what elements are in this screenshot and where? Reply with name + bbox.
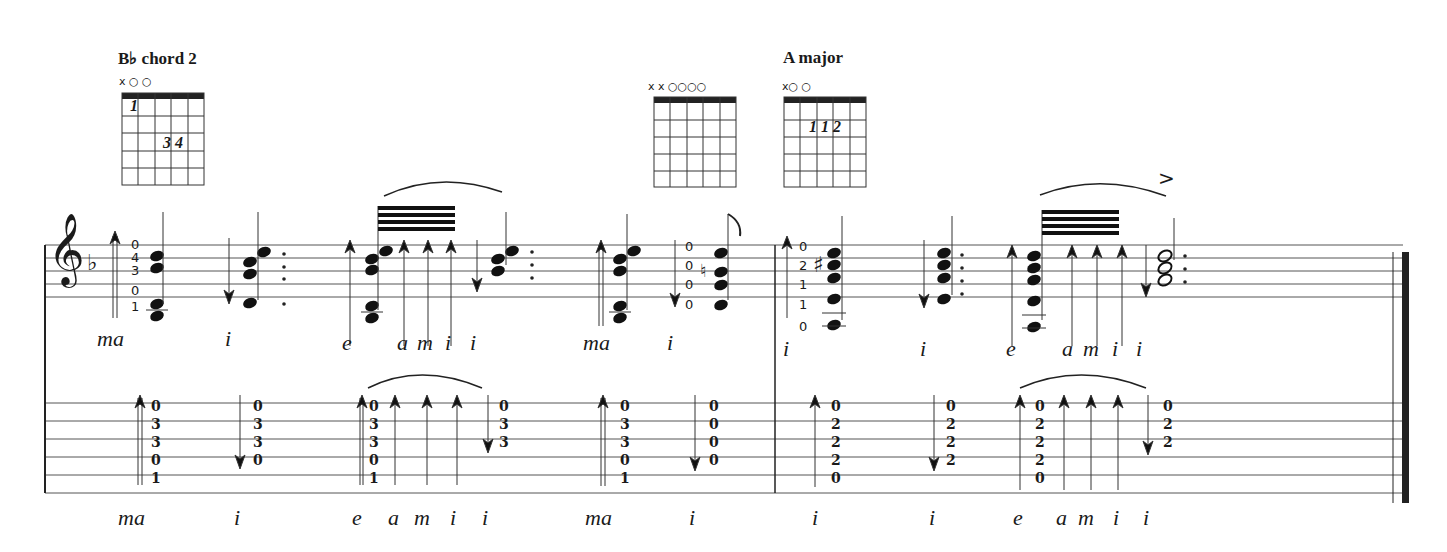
chord-diagram-a-major — [784, 97, 866, 187]
notation-canvas — [0, 0, 1447, 552]
key-signature-flat: ♭ — [87, 250, 97, 275]
diagram-finger-bflat-1: 1 — [130, 97, 138, 115]
tab-strum-arrows — [135, 395, 1153, 490]
treble-clef-icon: 𝄞 — [48, 218, 85, 280]
chord-diagram-open — [654, 97, 736, 187]
diagram-finger-a-major: 1 1 2 — [809, 118, 841, 136]
noteheads — [149, 206, 1174, 334]
final-barline — [1402, 252, 1409, 503]
accent-mark: > — [1158, 166, 1175, 190]
diagram-finger-bflat-34: 3 4 — [163, 134, 183, 152]
ledger-lines — [146, 310, 1046, 328]
natural-sign: ♮ — [700, 260, 706, 281]
beams — [378, 206, 1119, 235]
sharp-sign: ♯ — [813, 252, 824, 277]
tab-lines — [45, 403, 1403, 493]
